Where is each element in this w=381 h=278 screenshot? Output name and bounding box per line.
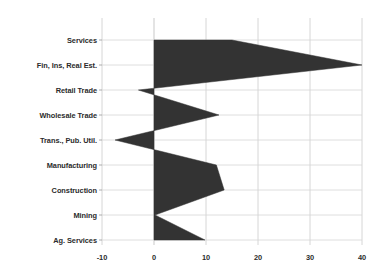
x-axis-tick-label: -10 — [97, 253, 108, 262]
chart-container: ServicesFin, Ins, Real Est.Retail TradeW… — [0, 0, 381, 278]
x-axis-tick-label: 20 — [254, 253, 262, 262]
x-axis-tick-label: 0 — [152, 253, 156, 262]
x-axis-label-group: -10010203040 — [0, 0, 381, 278]
x-axis-tick-label: 30 — [306, 253, 314, 262]
x-axis-tick-label: 10 — [202, 253, 210, 262]
x-axis-tick-label: 40 — [358, 253, 366, 262]
